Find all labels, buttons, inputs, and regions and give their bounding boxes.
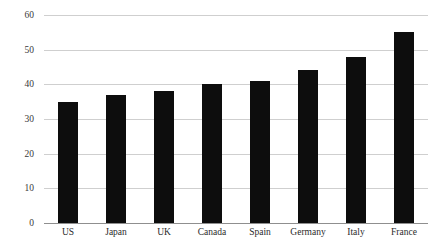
x-tick-label: Germany [290,227,325,237]
bar [250,81,270,223]
x-tick-label: UK [157,227,171,237]
x-tick-label: Canada [198,227,227,237]
bar [298,70,318,223]
plot-area [44,15,428,223]
y-axis-tick-labels: 0102030405060 [0,15,40,223]
bar [202,84,222,223]
y-tick-label: 30 [25,114,35,124]
x-tick-label: France [391,227,417,237]
y-tick-label: 10 [25,183,35,193]
x-axis-tick-labels: USJapanUKCanadaSpainGermanyItalyFrance [44,227,428,247]
y-tick-label: 20 [25,149,35,159]
y-tick-label: 50 [25,45,35,55]
bar [106,95,126,223]
x-tick-label: Italy [347,227,364,237]
x-tick-label: Spain [249,227,271,237]
bar-chart: 0102030405060 USJapanUKCanadaSpainGerman… [0,0,438,250]
y-tick-label: 0 [29,218,34,228]
bar [58,102,78,223]
y-tick-label: 40 [25,79,35,89]
x-tick-label: Japan [105,227,127,237]
chart-title [0,0,438,5]
bar [394,32,414,223]
y-tick-label: 60 [25,10,35,20]
bar [346,57,366,223]
bar-series [44,15,428,223]
x-tick-label: US [62,227,74,237]
bar [154,91,174,223]
gridline-0 [44,223,428,224]
